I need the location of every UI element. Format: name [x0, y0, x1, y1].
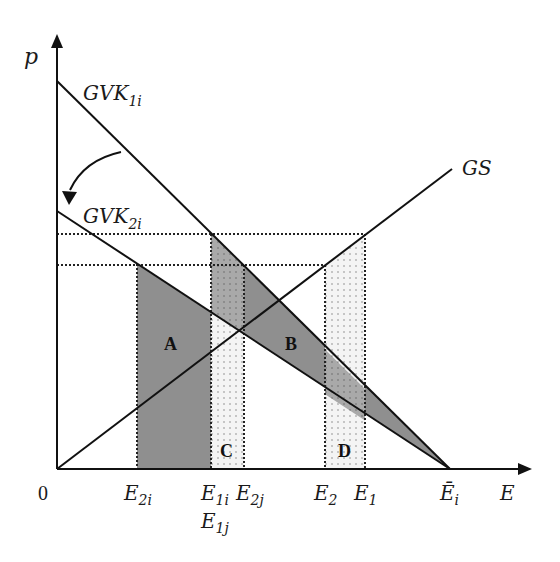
tick-e1: E1 [353, 481, 378, 508]
gvk2-label: GVK2i [83, 204, 142, 232]
x-axis-label: E [499, 481, 515, 505]
gvk1-label: GVK1i [83, 81, 142, 109]
tick-e1j: E1j [200, 509, 230, 536]
shift-arrowhead-icon [62, 191, 77, 205]
tick-e2i: E2i [123, 481, 152, 508]
region-d-label: D [338, 441, 351, 461]
gs-label: GS [462, 156, 492, 180]
shift-arrow-icon [70, 152, 121, 190]
x-axis-arrow-icon [518, 463, 532, 475]
origin-label: 0 [38, 482, 48, 504]
gvk1-line [57, 81, 450, 469]
tick-e2j: E2j [235, 481, 265, 508]
gvk2-line [57, 211, 450, 469]
region-c-label: C [220, 441, 233, 461]
tick-e1i: E1i [200, 481, 229, 508]
region-a-area [137, 264, 211, 469]
y-axis-arrow-icon [51, 34, 63, 48]
welfare-diagram: p E 0 GVK1i GVK2i GS E2i E1i E1j E2j E2 … [0, 0, 560, 562]
tick-e-bar-i: Ēi [439, 481, 459, 508]
region-a-label: A [164, 334, 177, 354]
tick-e2: E2 [313, 481, 338, 508]
y-axis-label: p [24, 44, 38, 69]
region-b-label: B [285, 334, 297, 354]
